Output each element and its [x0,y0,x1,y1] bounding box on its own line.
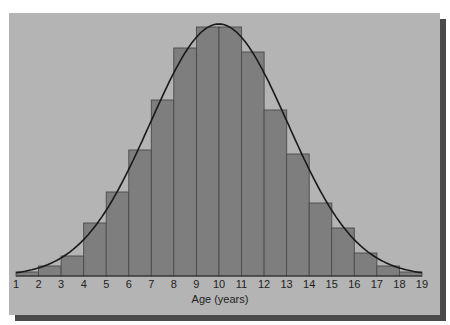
x-tick-label: 4 [81,278,87,290]
x-tick-label: 7 [148,278,154,290]
histogram-bars [16,27,422,276]
x-tick-label: 9 [193,278,199,290]
x-axis-title: Age (years) [192,293,249,305]
x-tick-label: 6 [126,278,132,290]
histogram-bar [61,256,84,276]
histogram-bar [84,223,107,276]
x-tick-label: 11 [236,278,247,290]
x-tick-label: 18 [393,278,405,290]
histogram-bar [129,150,152,276]
x-tick-label: 16 [348,278,360,290]
x-tick-label: 19 [416,278,428,290]
x-tick-label: 12 [258,278,270,290]
x-tick-label: 5 [103,278,109,290]
x-tick-label: 8 [171,278,177,290]
histogram-bar [219,27,242,276]
x-tick-label: 17 [371,278,383,290]
histogram-bar [151,100,174,276]
histogram-bar [287,154,310,276]
x-tick-label: 2 [35,278,41,290]
histogram-bar [242,52,265,276]
histogram-chart: 12345678910111213141516171819 Age (years… [0,0,450,325]
x-tick-label: 1 [13,278,19,290]
histogram-bar [264,110,287,276]
x-tick-label: 10 [213,278,225,290]
x-axis-ticks: 12345678910111213141516171819 [13,278,428,290]
x-tick-label: 14 [303,278,315,290]
histogram-bar [196,27,219,276]
histogram-bar [309,203,332,276]
x-tick-label: 3 [58,278,64,290]
x-tick-label: 15 [326,278,338,290]
x-tick-label: 13 [280,278,292,290]
histogram-bar [174,48,197,276]
